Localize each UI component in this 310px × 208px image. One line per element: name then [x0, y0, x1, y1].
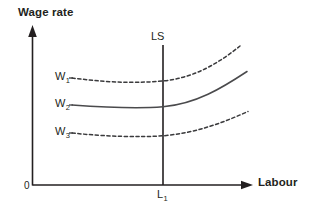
x-axis-arrowhead: [241, 181, 253, 190]
y-axis-title: Wage rate: [18, 7, 73, 19]
x-axis-title: Labour: [258, 177, 298, 189]
quantity-label-subscript: 1: [163, 194, 167, 203]
wage-level-subscript-w3: 3: [66, 131, 70, 140]
wage-level-label-w1: W1: [55, 71, 70, 82]
curve-w1: [72, 46, 240, 82]
wage-level-label-w3: W3: [55, 126, 70, 137]
wage-level-name-w2: W: [55, 97, 65, 109]
wage-level-subscript-w2: 2: [66, 103, 70, 112]
wage-level-name-w1: W: [55, 70, 65, 82]
curve-w2: [72, 72, 247, 108]
wage-labour-diagram: Wage rate Labour 0 LS L1 W1 W2 W3: [0, 0, 310, 208]
wage-level-label-w2: W2: [55, 98, 70, 109]
y-axis: [28, 25, 37, 186]
origin-label: 0: [24, 181, 30, 191]
curve-w3: [72, 112, 248, 137]
quantity-label: L1: [157, 189, 167, 200]
wage-level-subscript-w1: 1: [66, 76, 70, 85]
labour-supply-label: LS: [151, 31, 164, 42]
x-axis: [33, 181, 254, 190]
y-axis-arrowhead: [28, 25, 37, 37]
wage-level-name-w3: W: [55, 125, 65, 137]
